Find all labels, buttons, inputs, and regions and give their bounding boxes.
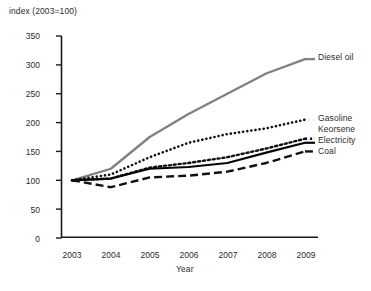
series-label-keorsene: Keorsene <box>318 124 355 134</box>
y-tick-marks <box>56 36 62 238</box>
line-chart: index (2003=100) Year 350 300 250 200 15… <box>0 0 371 291</box>
series-line-gasoline <box>72 120 305 181</box>
data-series-group <box>72 59 315 187</box>
axis-lines <box>62 36 319 238</box>
series-label-coal: Coal <box>318 146 336 156</box>
series-label-electricity: Electricity <box>318 135 355 145</box>
series-line-keorsene <box>72 139 305 181</box>
series-label-gasoline: Gasoline <box>318 113 352 123</box>
series-label-diesel-oil: Diesel oil <box>318 52 354 62</box>
plot-area <box>0 0 371 291</box>
